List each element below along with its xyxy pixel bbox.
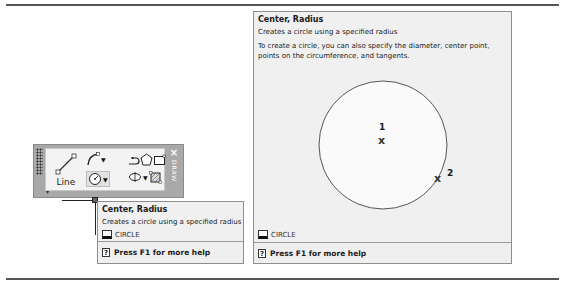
radius-point-label: 2	[447, 168, 453, 178]
command-line-icon	[102, 230, 112, 239]
ellipse-dropdown-icon[interactable]: ▼	[143, 174, 148, 181]
tooltip-connector-line	[62, 200, 96, 201]
command-line-icon	[258, 230, 268, 239]
expand-panel-icon[interactable]: ▾	[46, 188, 49, 195]
tooltip-title: Center, Radius	[102, 205, 167, 214]
command-name: CIRCLE	[271, 231, 296, 239]
extended-tooltip: Center, Radius Creates a circle using a …	[253, 11, 512, 264]
bottom-divider-rule	[6, 278, 559, 280]
polyline-icon[interactable]	[128, 154, 140, 166]
grip-handle[interactable]	[36, 148, 43, 175]
hatch-tool-button[interactable]	[149, 171, 162, 184]
center-point-label: 1	[379, 122, 385, 132]
toolbar-title: DRAW	[170, 160, 178, 182]
help-text: Press F1 for more help	[114, 248, 210, 257]
arc-icon	[86, 152, 100, 166]
shape-tools-row	[128, 153, 166, 166]
command-name: CIRCLE	[115, 231, 140, 239]
close-icon[interactable]: ×	[170, 147, 178, 158]
line-tool-label: Line	[57, 177, 76, 187]
polygon-icon[interactable]	[140, 153, 153, 166]
circle-tool-button[interactable]: ▼	[86, 171, 110, 187]
ellipse-icon	[128, 171, 142, 183]
tooltip-command: CIRCLE	[102, 230, 140, 239]
circle-illustration	[254, 12, 513, 222]
help-icon: ?	[258, 249, 266, 258]
rectangle-icon[interactable]	[153, 154, 166, 166]
draw-toolbar-panel: Line ▼	[33, 144, 184, 198]
tooltip-command: CIRCLE	[258, 230, 296, 239]
ellipse-tool-button[interactable]: ▼	[128, 171, 148, 183]
basic-tooltip: Center, Radius Creates a circle using a …	[97, 201, 244, 264]
tooltip-help-footer: ? Press F1 for more help	[98, 241, 243, 263]
circle-dropdown-icon[interactable]: ▼	[103, 176, 108, 183]
help-icon: ?	[102, 248, 110, 257]
toolbar-side-strip: × DRAW	[167, 147, 181, 195]
circle-icon	[88, 172, 102, 186]
arc-dropdown-icon[interactable]: ▼	[101, 156, 106, 163]
tooltip-help-footer: ? Press F1 for more help	[254, 242, 511, 263]
line-tool-button[interactable]: Line	[48, 151, 84, 189]
hatch-icon	[149, 171, 162, 184]
center-point-marker-icon: x	[378, 134, 385, 147]
tooltip-connector-line-vertical	[95, 200, 96, 235]
radius-point-marker-icon: x	[434, 172, 441, 185]
tooltip-description: Creates a circle using a specified radiu…	[102, 218, 241, 226]
arc-tool-button[interactable]: ▼	[86, 152, 106, 166]
toolbar-tools-area: Line ▼	[45, 148, 165, 191]
line-icon	[54, 152, 78, 176]
help-text: Press F1 for more help	[270, 249, 366, 258]
top-divider-rule	[6, 4, 559, 6]
